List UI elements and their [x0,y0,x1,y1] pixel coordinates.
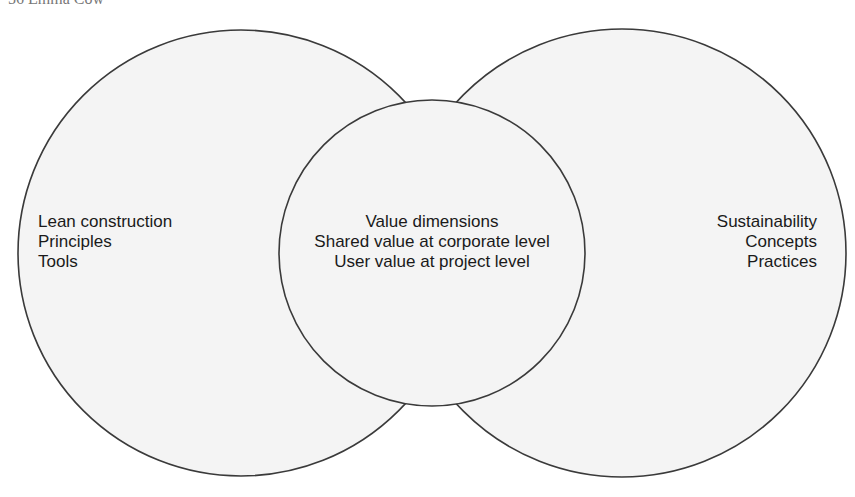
center-circle-label: Value dimensions Shared value at corpora… [282,212,582,272]
center-label-line: User value at project level [282,252,582,272]
left-label-line: Tools [38,252,172,272]
center-label-line: Value dimensions [282,212,582,232]
left-circle-label: Lean construction Principles Tools [38,212,172,272]
left-label-line: Lean construction [38,212,172,232]
right-label-line: Practices [717,252,817,272]
right-label-line: Sustainability [717,212,817,232]
left-label-line: Principles [38,232,172,252]
right-label-line: Concepts [717,232,817,252]
right-circle-label: Sustainability Concepts Practices [717,212,817,272]
center-label-line: Shared value at corporate level [282,232,582,252]
